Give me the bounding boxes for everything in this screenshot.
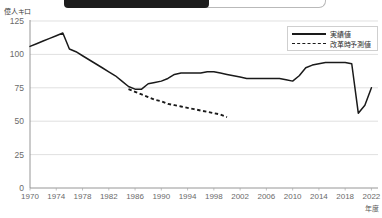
y-tick-label: 125: [2, 16, 24, 26]
chart-legend: 実績値 改革時予測値: [287, 26, 378, 51]
y-tick-label: 75: [2, 83, 24, 93]
line-chart: 億人キロ 実績値 改革時予測値 年度 025507510012519701974…: [0, 0, 382, 218]
y-tick-label: 50: [2, 116, 24, 126]
series-line-1: [128, 89, 226, 117]
legend-label-forecast: 改革時予測値: [330, 39, 371, 49]
legend-label-actual: 実績値: [330, 29, 350, 39]
y-tick-label: 100: [2, 49, 24, 59]
y-tick-label: 25: [2, 150, 24, 160]
legend-item-forecast: 改革時予測値: [292, 39, 371, 49]
legend-swatch-dashed-icon: [292, 40, 326, 48]
x-axis-unit-label: 年度: [365, 203, 379, 213]
x-tick-label: 2022: [356, 192, 382, 201]
legend-item-actual: 実績値: [292, 29, 350, 39]
legend-swatch-solid-icon: [292, 30, 326, 38]
